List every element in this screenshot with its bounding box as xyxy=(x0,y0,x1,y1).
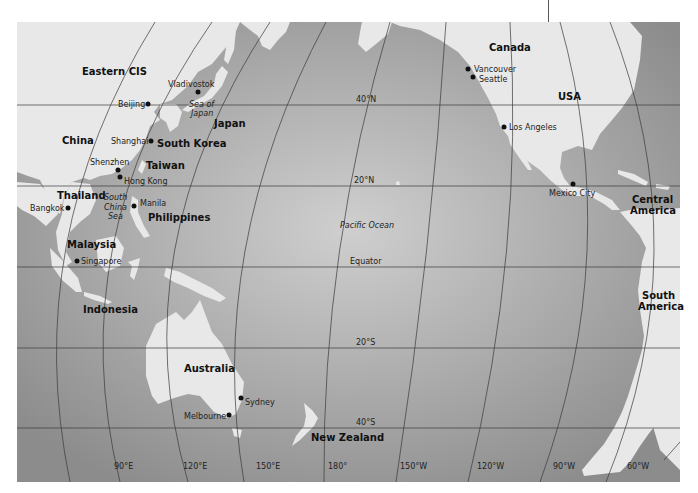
label-city-shenzhen: Shenzhen xyxy=(90,158,129,167)
label-taiwan: Taiwan xyxy=(146,160,185,171)
city-dot-bangkok xyxy=(66,206,71,211)
label-meridian-120w: 120°W xyxy=(477,462,504,471)
label-city-seattle: Seattle xyxy=(479,75,507,84)
label-south-america-1: South xyxy=(642,290,675,301)
label-eastern-cis: Eastern CIS xyxy=(82,66,147,77)
pacific-map: Eastern CIS China Japan South Korea Taiw… xyxy=(0,0,698,493)
city-dot-manila xyxy=(132,204,137,209)
label-south-america-2: America xyxy=(638,301,684,312)
label-thailand: Thailand xyxy=(57,190,106,201)
label-canada: Canada xyxy=(489,42,531,53)
label-south-china-sea-3: Sea xyxy=(108,212,123,221)
label-city-bangkok: Bangkok xyxy=(30,204,65,213)
label-pacific-ocean: Pacific Ocean xyxy=(340,221,394,230)
label-city-vancouver: Vancouver xyxy=(474,65,517,74)
label-meridian-150w: 150°W xyxy=(400,462,427,471)
city-dot-melbourne xyxy=(227,413,232,418)
label-south-china-sea-2: China xyxy=(104,203,127,212)
label-sea-of-japan-2: Japan xyxy=(189,109,213,118)
label-sea-of-japan-1: Sea of xyxy=(189,100,215,109)
label-south-china-sea-1: South xyxy=(104,193,127,202)
label-city-beijing: Beijing xyxy=(118,100,145,109)
city-dot-los-angeles xyxy=(502,125,507,130)
label-parallel-40n: 40°N xyxy=(356,95,376,104)
label-meridian-150e: 150°E xyxy=(256,462,280,471)
city-dot-sydney xyxy=(239,396,244,401)
label-meridian-90w: 90°W xyxy=(553,462,575,471)
label-central-america-2: America xyxy=(630,205,676,216)
label-china: China xyxy=(62,135,94,146)
label-city-mexico-city: Mexico City xyxy=(549,189,595,198)
label-city-singapore: Singapore xyxy=(81,257,121,266)
label-parallel-40s: 40°S xyxy=(356,418,375,427)
label-new-zealand: New Zealand xyxy=(311,432,384,443)
label-meridian-90e: 90°E xyxy=(114,462,133,471)
city-dot-beijing xyxy=(146,102,151,107)
label-australia: Australia xyxy=(184,363,235,374)
city-dot-vladivostok xyxy=(196,90,201,95)
label-indonesia: Indonesia xyxy=(83,304,138,315)
label-city-sydney: Sydney xyxy=(245,398,275,407)
label-japan: Japan xyxy=(213,118,246,129)
label-city-manila: Manila xyxy=(140,199,166,208)
label-parallel-equator: Equator xyxy=(350,257,382,266)
label-parallel-20s: 20°S xyxy=(356,338,375,347)
label-south-korea: South Korea xyxy=(157,138,226,149)
label-city-melbourne: Melbourne xyxy=(184,412,226,421)
label-city-shanghai: Shanghai xyxy=(111,137,148,146)
city-dot-shanghai xyxy=(149,139,154,144)
label-philippines: Philippines xyxy=(148,212,210,223)
label-meridian-120e: 120°E xyxy=(183,462,207,471)
label-parallel-20n: 20°N xyxy=(354,176,374,185)
label-city-los-angeles: Los Angeles xyxy=(509,123,557,132)
label-city-hong-kong: Hong Kong xyxy=(124,177,168,186)
label-malaysia: Malaysia xyxy=(67,239,116,250)
city-dot-vancouver xyxy=(466,67,471,72)
city-dot-hong-kong xyxy=(118,175,123,180)
label-meridian-180: 180° xyxy=(328,462,347,471)
label-meridian-60w: 60°W xyxy=(627,462,649,471)
label-usa: USA xyxy=(558,91,581,102)
label-city-vladivostok: Vladivostok xyxy=(168,80,215,89)
city-dot-seattle xyxy=(471,75,476,80)
city-dot-shenzhen xyxy=(116,168,121,173)
city-dot-mexico-city xyxy=(571,182,576,187)
city-dot-singapore xyxy=(75,259,80,264)
label-central-america-1: Central xyxy=(632,194,673,205)
